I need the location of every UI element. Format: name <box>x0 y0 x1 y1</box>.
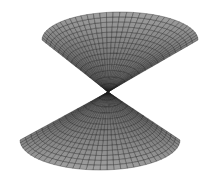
mesh-face <box>99 43 104 49</box>
mesh-face <box>107 27 112 32</box>
mesh-face <box>105 65 107 71</box>
mesh-face <box>100 165 107 170</box>
mesh-face <box>95 23 101 29</box>
mesh-face <box>102 146 107 151</box>
mesh-face <box>120 164 127 169</box>
mesh-face <box>103 140 108 145</box>
mesh-face <box>107 150 113 155</box>
mesh-face <box>103 135 107 140</box>
mesh-face <box>105 59 108 65</box>
mesh-face <box>118 154 125 159</box>
mesh-face <box>100 17 106 22</box>
mesh-face <box>107 135 111 140</box>
mesh-face <box>118 149 124 154</box>
mesh-face <box>114 164 121 169</box>
mesh-face <box>107 130 111 135</box>
mesh-face <box>87 14 94 20</box>
mesh-face <box>108 119 111 125</box>
mesh-face <box>112 140 117 145</box>
mesh-face <box>101 27 107 32</box>
mesh-face <box>102 32 107 37</box>
mesh-face <box>106 12 113 17</box>
mesh-face <box>107 32 112 37</box>
mesh-face <box>107 42 111 48</box>
mesh-face <box>103 43 107 49</box>
mesh-face <box>107 53 110 59</box>
mesh-face <box>97 33 102 39</box>
mesh-face <box>107 17 113 22</box>
mesh-face <box>113 17 120 22</box>
mesh-face <box>112 150 118 155</box>
mesh-face <box>103 48 107 54</box>
mesh-face <box>101 151 107 156</box>
mesh-face <box>94 18 101 24</box>
mesh-face <box>107 165 114 170</box>
mesh-face <box>107 160 113 165</box>
mesh-face <box>107 124 110 130</box>
mesh-face <box>108 107 110 113</box>
mesh-face <box>101 155 107 160</box>
mesh-face <box>96 28 102 34</box>
mesh-face <box>107 140 112 145</box>
mesh-face <box>112 27 118 32</box>
mesh-face <box>111 135 116 140</box>
mesh-face <box>117 144 123 149</box>
mesh-face <box>94 160 101 165</box>
mesh-face <box>112 145 117 150</box>
mesh-face <box>112 22 118 27</box>
mesh-face <box>107 145 112 150</box>
mesh-face <box>119 159 126 164</box>
mesh-face <box>98 38 103 44</box>
mesh-face <box>108 113 110 119</box>
mesh-face <box>101 22 107 27</box>
mesh-face <box>113 155 119 160</box>
mesh-face <box>102 37 107 43</box>
mesh-face <box>93 13 100 19</box>
mesh-face <box>95 155 102 160</box>
mesh-face <box>107 22 113 27</box>
mesh-face <box>113 160 120 165</box>
mesh-face <box>104 53 107 59</box>
mesh-face <box>107 155 113 160</box>
mesh-face <box>100 12 107 17</box>
mesh-face <box>113 12 120 17</box>
minimal-surface-figure <box>0 0 216 191</box>
mesh-face <box>107 48 111 54</box>
mesh-face <box>111 129 115 135</box>
mesh-face <box>93 165 100 170</box>
mesh-face <box>100 160 107 165</box>
mesh-face <box>107 37 112 42</box>
